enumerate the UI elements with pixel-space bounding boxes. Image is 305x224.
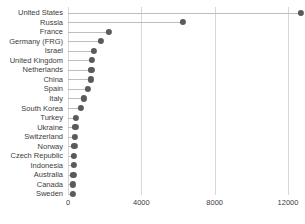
data-point-marker — [88, 76, 94, 82]
chart-row: South Korea — [0, 104, 305, 114]
chart-row: Norway — [0, 142, 305, 152]
stem-line — [68, 51, 92, 52]
chart-row: Netherlands — [0, 65, 305, 75]
data-point-marker — [69, 191, 75, 197]
data-point-marker — [71, 143, 77, 149]
chart-row: Israel — [0, 46, 305, 56]
chart-row: Switzerland — [0, 132, 305, 142]
chart-row: Italy — [0, 94, 305, 104]
category-label: Norway — [38, 142, 63, 152]
chart-row: France — [0, 27, 305, 37]
data-point-marker — [73, 115, 79, 121]
stem-line — [68, 79, 89, 80]
category-label: Turkey — [40, 113, 63, 123]
stem-line — [68, 13, 299, 14]
stem-line — [68, 41, 99, 42]
category-label: France — [40, 27, 63, 37]
stem-line — [68, 70, 89, 71]
category-label: Russia — [40, 18, 63, 28]
chart-row: Sweden — [0, 189, 305, 199]
data-point-marker — [98, 38, 104, 44]
category-label: Indonesia — [30, 161, 63, 171]
category-label: United Kingdom — [10, 56, 63, 66]
data-point-marker — [180, 19, 186, 25]
category-label: United States — [18, 8, 63, 18]
data-point-marker — [89, 57, 95, 63]
data-point-marker — [70, 172, 76, 178]
category-label: Australia — [34, 170, 63, 180]
data-point-marker — [81, 95, 87, 101]
data-point-marker — [71, 153, 77, 159]
plot-area: 04000800012000United StatesRussiaFranceG… — [0, 0, 305, 224]
chart-row: Spain — [0, 84, 305, 94]
data-point-marker — [106, 29, 112, 35]
category-label: Switzerland — [24, 132, 63, 142]
chart-row: Russia — [0, 18, 305, 28]
chart-row: China — [0, 75, 305, 85]
category-label: Netherlands — [23, 65, 63, 75]
data-point-marker — [71, 162, 77, 168]
category-label: Sweden — [36, 189, 63, 199]
category-label: Spain — [44, 84, 63, 94]
stem-line — [68, 22, 181, 23]
data-point-marker — [78, 105, 84, 111]
data-point-marker — [72, 134, 78, 140]
stem-line — [68, 32, 107, 33]
chart-row: Germany (FRG) — [0, 37, 305, 47]
data-point-marker — [70, 181, 76, 187]
data-point-marker — [88, 67, 94, 73]
chart-row: Canada — [0, 180, 305, 190]
data-point-marker — [91, 48, 97, 54]
chart-row: Indonesia — [0, 161, 305, 171]
chart-row: Turkey — [0, 113, 305, 123]
chart-row: Ukraine — [0, 123, 305, 133]
data-point-marker — [298, 10, 304, 16]
dot-plot-chart: 04000800012000United StatesRussiaFranceG… — [0, 0, 305, 224]
data-point-marker — [72, 124, 78, 130]
chart-row: United Kingdom — [0, 56, 305, 66]
category-label: Czech Republic — [10, 151, 63, 161]
category-label: Ukraine — [37, 123, 63, 133]
category-label: Israel — [45, 46, 63, 56]
chart-row: Australia — [0, 170, 305, 180]
category-label: Germany (FRG) — [9, 37, 63, 47]
stem-line — [68, 98, 82, 99]
category-label: China — [43, 75, 63, 85]
chart-row: United States — [0, 8, 305, 18]
chart-row: Czech Republic — [0, 151, 305, 161]
stem-line — [68, 60, 90, 61]
category-label: Italy — [49, 94, 63, 104]
stem-line — [68, 89, 86, 90]
data-point-marker — [85, 86, 91, 92]
category-label: South Korea — [21, 104, 63, 114]
category-label: Canada — [37, 180, 63, 190]
